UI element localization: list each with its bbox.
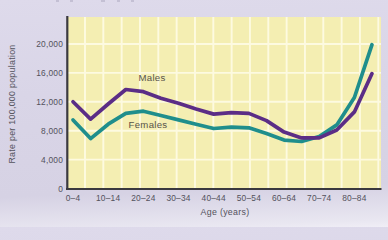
x-tick-label: 0–4: [66, 193, 81, 203]
males-series-label: Males: [138, 72, 165, 83]
y-tick-label: 16,000: [36, 68, 63, 78]
y-axis-title: Rate per 100,000 population: [7, 44, 17, 163]
y-tick-label: 8,000: [41, 126, 63, 136]
chart-svg: 04,0008,00012,00016,00020,000 0–410–1420…: [0, 0, 388, 227]
y-tick-label: 12,000: [36, 97, 63, 107]
cropped-text-marks: [56, 0, 134, 2]
chart-figure: 04,0008,00012,00016,00020,000 0–410–1420…: [0, 0, 388, 227]
x-tick-label: 70–74: [307, 193, 331, 203]
x-tick-label: 60–64: [272, 193, 296, 203]
x-tick-label: 20–24: [131, 193, 155, 203]
x-tick-label: 10–14: [96, 193, 120, 203]
females-series-label: Females: [129, 119, 168, 130]
x-tick-labels: 0–410–1420–2430–3440–4450–5460–6470–7480…: [66, 193, 367, 203]
y-tick-labels: 04,0008,00012,00016,00020,000: [36, 39, 63, 194]
plot-background: [68, 17, 381, 189]
y-tick-label: 0: [58, 184, 63, 194]
x-tick-label: 30–34: [166, 193, 190, 203]
x-tick-label: 40–44: [202, 193, 226, 203]
y-tick-label: 20,000: [36, 39, 63, 49]
x-tick-label: 50–54: [237, 193, 261, 203]
x-axis-title: Age (years): [201, 207, 250, 217]
x-tick-label: 80–84: [342, 193, 366, 203]
y-tick-label: 4,000: [41, 155, 63, 165]
